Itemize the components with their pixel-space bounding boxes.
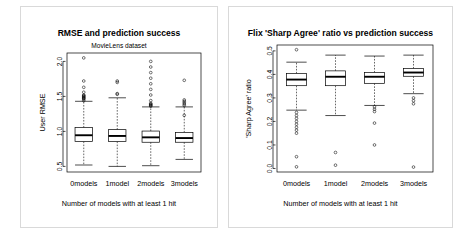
y-tick-label: 0.5: [266, 46, 273, 56]
outlier-point: [295, 123, 298, 126]
x-tick-label: 1model: [105, 179, 129, 188]
x-tick-label: 3models: [171, 179, 199, 188]
outlier-point: [412, 166, 415, 169]
y-tick-label: 1.0: [56, 126, 63, 136]
y-tick-label: 0.5: [56, 161, 63, 171]
box-iqr: [364, 73, 384, 84]
outlier-point: [334, 164, 337, 167]
outlier-point: [82, 57, 85, 60]
outlier-point: [412, 97, 415, 100]
y-tick-label: 0.1: [266, 140, 273, 150]
panel-title: Flix 'Sharp Agree' ratio vs prediction s…: [248, 28, 433, 38]
outlier-point: [295, 111, 298, 114]
outlier-point: [373, 122, 376, 125]
outlier-point: [82, 91, 85, 94]
outlier-point: [295, 165, 298, 168]
x-tick-label: 0models: [283, 179, 311, 188]
outlier-point: [334, 151, 337, 154]
boxplot-group: [403, 55, 423, 168]
outlier-point: [149, 94, 152, 97]
x-tick-label: 1model: [324, 179, 348, 188]
x-tick-label: 0models: [70, 179, 98, 188]
rmse-panel: RMSE and prediction successMovieLens dat…: [20, 6, 218, 228]
x-tick-label: 2models: [361, 179, 389, 188]
y-tick-label: 2.0: [56, 56, 63, 66]
outlier-point: [149, 71, 152, 74]
outlier-point: [82, 80, 85, 83]
boxplot-group: [142, 60, 159, 166]
outlier-point: [149, 99, 152, 102]
x-tick-label: 2models: [137, 179, 165, 188]
outlier-point: [149, 82, 152, 85]
x-axis-title: Number of models with at least 1 hit: [62, 199, 176, 208]
panel-subtitle: MovieLens dataset: [91, 42, 147, 49]
outlier-point: [412, 99, 415, 102]
y-tick-label: 0.4: [266, 69, 273, 79]
outlier-point: [82, 86, 85, 89]
outlier-point: [412, 102, 415, 105]
boxplot-group: [286, 48, 306, 168]
outlier-point: [183, 79, 186, 82]
panel-title: RMSE and prediction success: [58, 28, 181, 38]
outlier-point: [149, 66, 152, 69]
sharp-agree-panel: Flix 'Sharp Agree' ratio vs prediction s…: [228, 6, 453, 228]
outlier-point: [149, 60, 152, 63]
outlier-point: [295, 129, 298, 132]
figure-root: RMSE and prediction successMovieLens dat…: [0, 0, 461, 235]
outlier-point: [295, 117, 298, 120]
boxplot-group: [109, 80, 126, 167]
y-axis-title: User RMSE: [38, 93, 47, 131]
box-iqr: [325, 71, 345, 86]
outlier-point: [373, 144, 376, 147]
boxplot-group: [75, 57, 92, 165]
x-tick-label: 3models: [400, 179, 428, 188]
outlier-point: [149, 77, 152, 80]
x-axis-title: Number of models with at least 1 hit: [283, 199, 397, 208]
y-tick-label: 1.5: [56, 91, 63, 101]
outlier-point: [295, 155, 298, 158]
y-tick-label: 0.3: [266, 93, 273, 103]
y-axis-title: 'Sharp Agree' ratio: [244, 79, 253, 138]
outlier-point: [149, 88, 152, 91]
plot-frame: [67, 53, 201, 172]
outlier-point: [295, 48, 298, 51]
outlier-point: [295, 126, 298, 129]
outlier-point: [295, 132, 298, 135]
boxplot-group: [364, 56, 384, 146]
boxplot-group: [176, 79, 193, 159]
outlier-point: [295, 114, 298, 117]
boxplot-group: [325, 55, 345, 166]
plot-frame: [277, 45, 433, 172]
y-tick-label: 0.0: [266, 164, 273, 174]
outlier-point: [295, 120, 298, 123]
y-tick-label: 0.2: [266, 116, 273, 126]
sharp-agree-boxplot-svg: Flix 'Sharp Agree' ratio vs prediction s…: [229, 7, 452, 227]
rmse-boxplot-svg: RMSE and prediction successMovieLens dat…: [21, 7, 217, 227]
